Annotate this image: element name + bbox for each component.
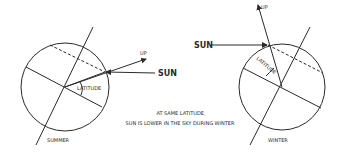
winter-latitude-label: LATITUDE: [255, 55, 277, 75]
summer-sun-label: SUN: [158, 69, 177, 78]
caption-line-1: AT SAME LATITUDE,: [156, 110, 206, 116]
summer-latitude-label: LATITUDE: [77, 85, 101, 91]
winter-sun-label: SUN: [194, 41, 213, 50]
summer-title: SUMMER: [47, 137, 70, 143]
summer-sun-ray: [106, 72, 155, 73]
winter-title: WINTER: [268, 137, 288, 143]
summer-up-label: UP: [140, 50, 147, 56]
summer-dashed-line: [50, 45, 105, 72]
winter-up-arrow: [258, 5, 282, 87]
winter-equator-line: [243, 68, 321, 108]
winter-up-label: UP: [261, 4, 268, 10]
season-sun-angle-diagram: UP SUN LATITUDE SUMMER AT SAME LATITUDE,…: [0, 0, 338, 155]
caption-line-2: SUN IS LOWER IN THE SKY DURING WINTER: [126, 120, 235, 126]
